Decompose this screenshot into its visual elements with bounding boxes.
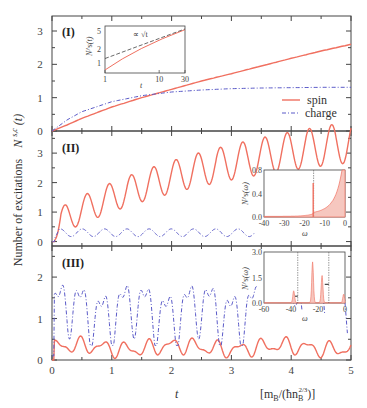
x-tick-label: 3 <box>229 364 235 376</box>
svg-text:Number of excitations N: Number of excitations N s,c (t) <box>6 114 25 266</box>
y-tick-label: 2 <box>37 177 43 189</box>
y-tick-label: 0 <box>37 125 43 137</box>
svg-text:-20: -20 <box>299 219 310 228</box>
svg-text:-20: -20 <box>313 305 324 314</box>
legend-charge-label: charge <box>305 106 337 120</box>
svg-text:0.0: 0.0 <box>252 299 262 308</box>
svg-text:0.8: 0.8 <box>252 166 262 175</box>
legend: spin charge <box>282 93 337 120</box>
svg-text:N^s(ω): N^s(ω) <box>241 267 250 291</box>
svg-text:∝ √t: ∝ √t <box>133 30 148 39</box>
panel-label-2: (II) <box>62 141 79 155</box>
y-axis-label: Number of excitations N s,c (t) <box>6 114 25 266</box>
svg-text:N^s(ω): N^s(ω) <box>241 182 250 206</box>
ylabel-arg: (t) <box>11 114 25 125</box>
x-tick-label: 0 <box>49 364 55 376</box>
svg-text:3.0: 3.0 <box>252 248 262 257</box>
y-tick-label: 2 <box>37 271 43 283</box>
svg-text:0.0: 0.0 <box>252 213 262 222</box>
svg-text:ω: ω <box>302 314 308 323</box>
svg-text:-30: -30 <box>279 219 290 228</box>
y-tick-label: 0 <box>37 236 43 248</box>
y-tick-label: 1 <box>37 206 43 218</box>
inset-panel-1: 11030125tN^s(t)∝ √t <box>85 26 189 90</box>
y-tick-labels: 01230123012 <box>37 25 43 366</box>
ylabel-superscript: s,c <box>10 128 19 137</box>
panel-3-charge-curve <box>52 285 257 356</box>
inset-panel-3: -60-40-2000.01.53.0ωN^s(ω) <box>241 248 347 323</box>
svg-text:0.4: 0.4 <box>252 190 262 199</box>
x-tick-label: 2 <box>169 364 175 376</box>
y-tick-label: 1 <box>37 313 43 325</box>
svg-text:10: 10 <box>155 75 163 84</box>
x-tick-label: 5 <box>348 364 354 376</box>
svg-text:t: t <box>140 81 143 90</box>
svg-text:0: 0 <box>343 305 347 314</box>
svg-text:1: 1 <box>97 59 101 68</box>
ylabel-main: Number of excitations <box>11 159 25 267</box>
svg-text:-40: -40 <box>286 305 297 314</box>
y-tick-label: 3 <box>37 147 43 159</box>
panel-2-charge-curve <box>52 229 255 242</box>
figure: (I) (II) (III) 01230123012 012345 Number… <box>0 0 367 408</box>
legend-spin-label: spin <box>307 93 327 107</box>
y-tick-label: 1 <box>37 92 43 104</box>
y-tick-label: 3 <box>37 25 43 37</box>
panel-3-spin-curve <box>52 336 351 360</box>
svg-text:1: 1 <box>103 75 107 84</box>
svg-text:0: 0 <box>343 219 347 228</box>
inset-panel-2: -40-30-20-1000.00.40.8ωN^s(ω) <box>241 166 347 238</box>
svg-text:30: 30 <box>181 75 189 84</box>
ylabel-symbol: N <box>11 139 25 149</box>
y-tick-label: 0 <box>37 354 43 366</box>
svg-text:-10: -10 <box>319 219 330 228</box>
x-tick-labels: 012345 <box>49 364 354 376</box>
panel-label-1: (I) <box>62 25 75 39</box>
panel-label-3: (III) <box>62 256 84 270</box>
svg-text:ω: ω <box>302 229 308 238</box>
y-tick-label: 2 <box>37 58 43 70</box>
x-tick-label: 4 <box>288 364 294 376</box>
x-axis-label: t <box>175 387 179 401</box>
svg-text:1.5: 1.5 <box>252 274 262 283</box>
x-axis-unit: [mB/(ħnB2/3)] <box>260 386 315 403</box>
svg-text:5: 5 <box>97 27 101 36</box>
svg-text:2: 2 <box>97 45 101 54</box>
svg-text:N^s(t): N^s(t) <box>85 36 94 57</box>
x-tick-label: 1 <box>109 364 115 376</box>
